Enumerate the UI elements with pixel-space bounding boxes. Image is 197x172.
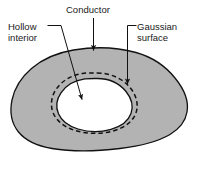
label-gaussian-surface: Gaussian surface bbox=[137, 21, 177, 43]
label-conductor: Conductor bbox=[66, 4, 110, 15]
label-conductor-line1: Conductor bbox=[66, 4, 110, 15]
label-gaussian-surface-line1: Gaussian bbox=[137, 21, 177, 32]
hollow-cavity-shape bbox=[57, 78, 132, 131]
label-hollow-interior: Hollow interior bbox=[8, 21, 37, 43]
label-hollow-interior-line1: Hollow bbox=[8, 21, 37, 32]
label-gaussian-surface-line2: surface bbox=[137, 32, 177, 43]
physics-figure-hollow-conductor: Hollow interior Conductor Gaussian surfa… bbox=[0, 0, 197, 172]
label-hollow-interior-line2: interior bbox=[8, 32, 37, 43]
